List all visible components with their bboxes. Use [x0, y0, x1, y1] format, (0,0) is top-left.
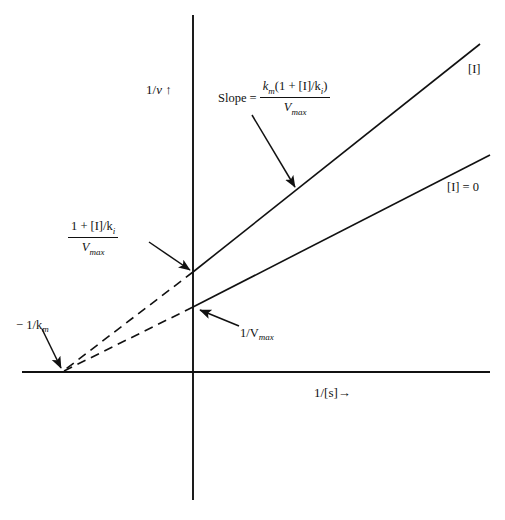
plot-canvas	[0, 0, 505, 520]
x-intercept-annotation-arrow	[42, 329, 61, 368]
y-intercept-fraction: 1 + [I]/ki Vmax	[68, 219, 118, 256]
y-intercept-numerator-text: 1 + [I]/k	[71, 219, 113, 233]
vmax-subscript: max	[259, 332, 274, 342]
y-intercept-numerator: 1 + [I]/ki	[68, 219, 118, 238]
x-intercept-km-subscript: m	[42, 324, 49, 334]
slope-formula-annotation: Slope = km(1 + [I]/ki) Vmax	[218, 79, 330, 116]
slope-annotation-arrow	[252, 115, 295, 187]
series-line-uninhibited	[193, 155, 490, 307]
vmax-annotation: 1/Vmax	[240, 325, 274, 342]
vmax-annotation-arrow	[200, 310, 239, 326]
y-intercept-denominator: Vmax	[68, 238, 118, 257]
x-intercept-annotation: − 1/km	[16, 317, 49, 334]
slope-numerator: km(1 + [I]/ki)	[260, 79, 331, 98]
right-arrow-icon: →	[338, 385, 351, 400]
x-intercept-text: − 1/k	[16, 318, 42, 332]
y-intercept-annotation-arrow	[149, 242, 190, 270]
x-axis-label: 1/[s]→	[314, 385, 351, 400]
y-intercept-ki-subscript: i	[113, 226, 116, 236]
series-label-uninhibited: [I] = 0	[447, 180, 479, 194]
series-label-inhibited: [I]	[468, 62, 481, 76]
series-dashed-uninhibited	[62, 307, 193, 372]
slope-label-text: Slope =	[218, 91, 257, 105]
slope-vmax-subscript: max	[291, 106, 306, 116]
slope-numerator-rest: (1 + [I]/k	[275, 79, 321, 93]
up-arrow-icon: ↑	[165, 82, 172, 97]
slope-denominator: Vmax	[260, 98, 331, 117]
lineweaver-burk-figure: 1/v ↑ 1/[s]→ Slope = km(1 + [I]/ki) Vmax…	[0, 0, 505, 520]
slope-fraction: km(1 + [I]/ki) Vmax	[260, 79, 331, 116]
y-axis-label: 1/v ↑	[146, 82, 172, 97]
vmax-text: 1/V	[240, 326, 259, 340]
y-intercept-vmax-subscript: max	[89, 246, 104, 256]
slope-numerator-close: )	[323, 79, 327, 93]
series-dashed-inhibited	[62, 272, 193, 372]
y-intercept-annotation: 1 + [I]/ki Vmax	[68, 219, 118, 256]
